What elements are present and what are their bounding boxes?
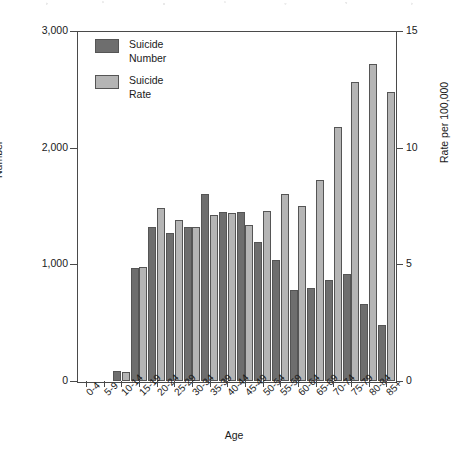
bar-suicide-number — [325, 280, 333, 382]
bar-suicide-rate — [334, 127, 342, 381]
left-axis-tick-label: 2,000 — [42, 141, 68, 153]
bar-suicide-number — [254, 242, 262, 381]
bar-suicide-rate — [369, 64, 377, 381]
left-axis-tick — [70, 264, 77, 265]
bar-suicide-rate — [245, 225, 253, 381]
bar-suicide-number — [166, 233, 174, 381]
left-axis-title: Number — [0, 141, 4, 178]
left-axis-tick — [70, 381, 77, 382]
bar-suicide-rate — [139, 267, 147, 381]
left-axis-tick-label: 0 — [62, 374, 68, 386]
legend-item-suicide-number: Suicide Number — [95, 38, 166, 65]
legend-label-suicide-number: Suicide Number — [129, 38, 166, 65]
bar-suicide-number — [184, 227, 192, 381]
suicide-number-and-rate-by-age-chart: 01,0002,0003,000 051015 0-45-910-1415-19… — [0, 0, 468, 450]
bar-group — [272, 31, 290, 381]
bar-group — [201, 31, 219, 381]
bar-suicide-number — [148, 227, 156, 381]
legend-swatch-suicide-number-icon — [95, 39, 119, 53]
right-axis-tick — [396, 264, 403, 265]
left-axis-tick-label: 1,000 — [42, 257, 68, 269]
bar-suicide-number — [307, 288, 315, 381]
right-axis-tick-label: 15 — [406, 24, 418, 36]
legend-swatch-suicide-rate-icon — [95, 75, 119, 89]
legend-label-suicide-rate-line1: Suicide — [129, 74, 163, 88]
right-axis-tick — [396, 148, 403, 149]
left-axis-tick — [70, 148, 77, 149]
bar-suicide-number — [343, 274, 351, 381]
bar-suicide-number — [272, 260, 280, 381]
bar-suicide-rate — [210, 215, 218, 381]
bar-suicide-rate — [175, 220, 183, 381]
legend-label-suicide-number-line2: Number — [129, 52, 166, 66]
bar-group — [360, 31, 378, 381]
bar-suicide-number — [360, 304, 368, 381]
bar-group — [219, 31, 237, 381]
left-axis-tick-label: 3,000 — [42, 24, 68, 36]
bar-suicide-rate — [281, 194, 289, 381]
bar-group — [290, 31, 308, 381]
bar-suicide-rate — [263, 211, 271, 381]
bar-group — [166, 31, 184, 381]
bar-suicide-number — [201, 194, 209, 381]
legend-label-suicide-rate-line2: Rate — [129, 88, 163, 102]
bar-group — [184, 31, 202, 381]
bar-suicide-rate — [228, 213, 236, 381]
legend-label-suicide-number-line1: Suicide — [129, 38, 166, 52]
bar-group — [237, 31, 255, 381]
bar-group — [343, 31, 361, 381]
right-axis-tick-label: 0 — [406, 374, 412, 386]
bar-suicide-number — [237, 212, 245, 381]
bar-suicide-number — [290, 290, 298, 381]
bar-group — [254, 31, 272, 381]
bar-suicide-rate — [351, 82, 359, 381]
x-axis-title: Age — [0, 429, 468, 441]
bar-suicide-number — [219, 212, 227, 381]
bar-group — [378, 31, 396, 381]
legend-label-suicide-rate: Suicide Rate — [129, 74, 163, 101]
bar-suicide-rate — [298, 206, 306, 381]
left-axis-tick — [70, 31, 77, 32]
scan-artifact-band — [0, 0, 468, 6]
bar-group — [78, 31, 96, 381]
bar-suicide-rate — [316, 180, 324, 381]
bar-suicide-rate — [157, 208, 165, 381]
bar-group — [307, 31, 325, 381]
bar-suicide-number — [113, 371, 121, 382]
legend-item-suicide-rate: Suicide Rate — [95, 74, 163, 101]
right-axis-tick — [396, 31, 403, 32]
bar-group — [325, 31, 343, 381]
bar-suicide-number — [131, 268, 139, 381]
right-axis-title: Rate per 100,000 — [438, 82, 450, 163]
right-axis-tick-label: 5 — [406, 257, 412, 269]
bar-suicide-rate — [387, 92, 395, 381]
bar-suicide-rate — [192, 227, 200, 381]
right-axis-tick-label: 10 — [406, 141, 418, 153]
